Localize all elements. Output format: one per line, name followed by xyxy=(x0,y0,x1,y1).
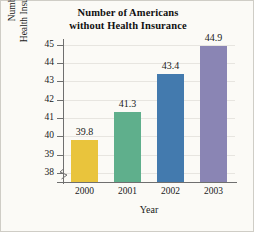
y-tick-label: 45 xyxy=(37,40,54,50)
y-tick-label: 42 xyxy=(37,95,54,105)
y-tick-label: 39 xyxy=(37,150,54,160)
bar-value-label: 41.3 xyxy=(108,99,148,109)
y-tick-mark xyxy=(57,118,63,119)
y-axis-title-line-2: Health Insurance (millions) xyxy=(19,0,31,65)
y-tick-mark xyxy=(57,63,63,64)
y-tick-mark xyxy=(57,100,63,101)
plot-area xyxy=(63,39,235,182)
y-axis-title: Number without Health Insurance (million… xyxy=(7,0,33,65)
bar-chart-figure: Number of Americans without Health Insur… xyxy=(0,0,254,232)
y-tick-mark xyxy=(57,136,63,137)
y-axis-line xyxy=(63,39,64,184)
x-axis-title: Year xyxy=(63,204,235,215)
bar-value-label: 44.9 xyxy=(194,33,234,43)
y-tick-label: 44 xyxy=(37,58,54,68)
bar[interactable] xyxy=(114,112,141,182)
y-tick-mark xyxy=(57,155,63,156)
chart-title-line-1: Number of Americans xyxy=(1,7,254,20)
y-tick-label: 41 xyxy=(37,113,54,123)
axis-break-icon xyxy=(59,169,68,180)
y-tick-label: 43 xyxy=(37,76,54,86)
bar-value-label: 39.8 xyxy=(65,127,105,137)
chart-title-line-2: without Health Insurance xyxy=(1,20,254,33)
y-tick-label: 38 xyxy=(37,168,54,178)
y-tick-label: 40 xyxy=(37,131,54,141)
x-tick-label: 2001 xyxy=(106,186,150,196)
bar[interactable] xyxy=(71,140,98,182)
y-tick-mark xyxy=(57,45,63,46)
x-tick-label: 2000 xyxy=(63,186,107,196)
bar[interactable] xyxy=(200,46,227,182)
chart-title: Number of Americans without Health Insur… xyxy=(1,7,254,32)
y-tick-mark xyxy=(57,173,63,174)
bar[interactable] xyxy=(157,74,184,182)
y-axis-title-line-1: Number without xyxy=(7,0,19,65)
bar-value-label: 43.4 xyxy=(151,61,191,71)
gridline xyxy=(63,45,235,46)
x-axis-line xyxy=(57,182,237,183)
y-tick-mark xyxy=(57,81,63,82)
x-tick-label: 2003 xyxy=(192,186,236,196)
x-tick-label: 2002 xyxy=(149,186,193,196)
